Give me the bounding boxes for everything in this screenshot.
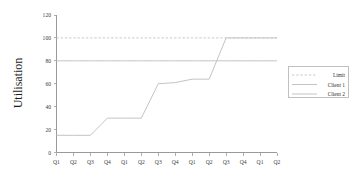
legend-label-client-2: Client 2 — [328, 91, 346, 97]
x-tick-label: Q2 — [274, 159, 281, 165]
x-tick-label: Q3 — [87, 159, 94, 165]
series-line-client-1 — [57, 38, 278, 135]
x-axis-ticks: Q1Q2Q3Q4Q1Q2Q3Q4Q1Q2Q3Q4Q1Q2 — [53, 153, 281, 166]
legend-label-limit: Limit — [333, 72, 345, 78]
utilisation-line-chart: Utilisation 020406080100120 Q1Q2Q3Q4Q1Q2… — [0, 0, 354, 182]
x-tick-label: Q2 — [138, 159, 145, 165]
y-axis-title: Utilisation — [11, 58, 25, 109]
x-tick-label: Q2 — [70, 159, 77, 165]
x-tick-label: Q3 — [223, 159, 230, 165]
chart-container: Utilisation 020406080100120 Q1Q2Q3Q4Q1Q2… — [0, 0, 354, 182]
x-tick-label: Q1 — [257, 159, 264, 165]
y-tick-label: 80 — [45, 58, 51, 64]
legend-label-client-1: Client 1 — [328, 82, 346, 88]
y-tick-label: 20 — [45, 127, 51, 133]
y-tick-label: 100 — [43, 35, 52, 41]
x-tick-label: Q1 — [189, 159, 196, 165]
legend: LimitClient 1Client 2 — [289, 67, 349, 98]
y-tick-label: 0 — [48, 150, 51, 156]
y-tick-label: 60 — [45, 81, 51, 87]
x-tick-label: Q1 — [121, 159, 128, 165]
x-tick-label: Q2 — [206, 159, 213, 165]
x-tick-label: Q4 — [172, 159, 179, 165]
y-tick-label: 40 — [45, 104, 51, 110]
x-tick-label: Q1 — [53, 159, 60, 165]
y-axis-ticks: 020406080100120 — [43, 12, 57, 156]
x-tick-label: Q4 — [104, 159, 111, 165]
series-group — [57, 38, 278, 135]
x-tick-label: Q3 — [155, 159, 162, 165]
y-tick-label: 120 — [43, 12, 52, 18]
x-tick-label: Q4 — [240, 159, 247, 165]
